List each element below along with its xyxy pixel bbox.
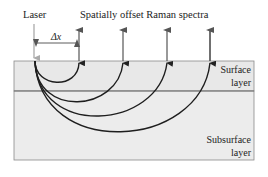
surface-layer: [14, 61, 254, 91]
surface-label-2: layer: [231, 77, 252, 88]
laser-label: Laser: [23, 9, 47, 20]
subsurface-label: Subsurface: [207, 134, 252, 145]
sors-diagram: Laser Spatially offset Raman spectra Δx …: [0, 0, 268, 177]
spectra-label: Spatially offset Raman spectra: [80, 9, 209, 20]
surface-label: Surface: [220, 64, 251, 75]
collection-arrows: [79, 30, 254, 61]
offset-label: Δx: [50, 31, 62, 42]
subsurface-layer: [14, 91, 254, 160]
subsurface-label-2: layer: [231, 147, 252, 158]
